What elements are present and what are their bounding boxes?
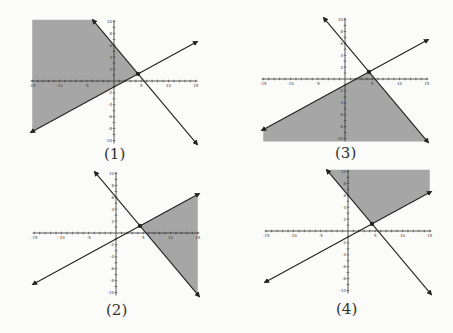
x-tick-label: 10 xyxy=(166,83,172,88)
y-tick-label: -10 xyxy=(336,136,343,141)
y-tick-label: 2 xyxy=(343,217,346,222)
shaded-region xyxy=(327,170,430,224)
y-tick-label: -4 xyxy=(110,254,114,259)
x-tick-label: -15 xyxy=(263,233,270,238)
graph-2-caption: (2) xyxy=(106,301,127,319)
y-tick-label: -6 xyxy=(339,112,343,117)
graph-3-caption: (3) xyxy=(335,144,356,162)
y-tick-label: -2 xyxy=(339,88,343,93)
y-tick-label: -4 xyxy=(342,252,346,257)
graph-3: -15-10-551015108642-2-4-6-8-10 xyxy=(260,17,430,143)
x-tick-label: 10 xyxy=(400,233,406,238)
y-tick-label: 4 xyxy=(343,205,346,210)
intersection-point xyxy=(370,222,374,226)
y-tick-label: -10 xyxy=(107,290,114,295)
intersection-point xyxy=(136,72,140,76)
y-tick-label: -6 xyxy=(110,266,114,271)
shaded-region xyxy=(140,194,198,294)
x-tick-label: -5 xyxy=(319,233,323,238)
y-tick-label: -10 xyxy=(339,288,346,293)
graphs-canvas: -15-10-551015108642-2-4-6-8-10-15-10-551… xyxy=(0,0,453,333)
x-tick-label: -10 xyxy=(58,235,65,240)
y-tick-label: -2 xyxy=(342,240,346,245)
x-tick-label: -5 xyxy=(85,83,89,88)
graph-4: -15-10-551015108642-2-4-6-8-10 xyxy=(263,169,433,295)
y-tick-label: -8 xyxy=(339,124,343,129)
x-tick-label: 10 xyxy=(168,235,174,240)
x-tick-label: 15 xyxy=(193,83,199,88)
graph-1: -15-10-551015108642-2-4-6-8-10 xyxy=(29,19,199,145)
y-tick-label: -2 xyxy=(110,242,114,247)
y-tick-label: 4 xyxy=(340,53,343,58)
y-tick-label: -2 xyxy=(108,90,112,95)
y-tick-label: 2 xyxy=(111,219,114,224)
y-tick-label: 8 xyxy=(340,29,343,34)
x-tick-label: 15 xyxy=(427,233,433,238)
y-tick-label: 10 xyxy=(109,171,115,176)
y-tick-label: -6 xyxy=(108,114,112,119)
y-tick-label: -4 xyxy=(339,100,343,105)
y-tick-label: -8 xyxy=(342,276,346,281)
x-tick-label: -5 xyxy=(316,81,320,86)
x-tick-label: -15 xyxy=(31,235,38,240)
x-tick-label: -10 xyxy=(290,233,297,238)
x-tick-label: -15 xyxy=(260,81,267,86)
y-tick-label: -10 xyxy=(105,138,112,143)
x-tick-label: 15 xyxy=(424,81,430,86)
x-tick-label: -10 xyxy=(56,83,63,88)
x-tick-label: -5 xyxy=(87,235,91,240)
y-tick-label: 10 xyxy=(338,17,344,22)
x-tick-label: 5 xyxy=(140,83,143,88)
y-tick-label: 10 xyxy=(107,19,113,24)
y-tick-label: 2 xyxy=(340,65,343,70)
y-tick-label: -6 xyxy=(342,264,346,269)
intersection-point xyxy=(367,70,371,74)
graph-2: -15-10-551015108642-2-4-6-8-10 xyxy=(31,171,201,297)
y-tick-label: -8 xyxy=(110,278,114,283)
y-tick-label: 4 xyxy=(111,207,114,212)
y-tick-label: 10 xyxy=(341,169,347,174)
y-tick-label: -4 xyxy=(108,102,112,107)
x-tick-label: -15 xyxy=(29,83,36,88)
x-tick-label: 5 xyxy=(142,235,145,240)
y-tick-label: 8 xyxy=(111,183,114,188)
y-tick-label: -8 xyxy=(108,126,112,131)
intersection-point xyxy=(138,224,142,228)
shaded-region xyxy=(32,20,138,132)
x-tick-label: 15 xyxy=(195,235,201,240)
y-tick-label: 8 xyxy=(109,31,112,36)
x-tick-label: 10 xyxy=(397,81,403,86)
graph-1-caption: (1) xyxy=(104,145,125,163)
graph-4-caption: (4) xyxy=(336,300,357,318)
x-tick-label: -10 xyxy=(287,81,294,86)
x-tick-label: 5 xyxy=(374,233,377,238)
x-tick-label: 5 xyxy=(371,81,374,86)
